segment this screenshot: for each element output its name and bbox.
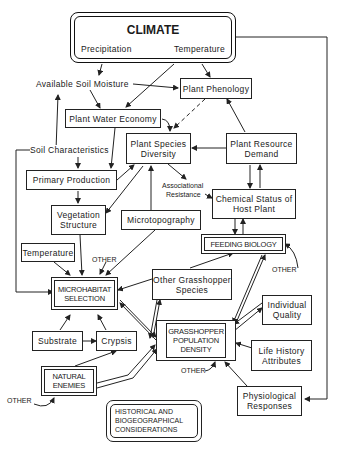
crypsis-node: Crypsis xyxy=(96,331,137,351)
node-line: POPULATION xyxy=(173,336,219,345)
feeding-biology-label: FEEDING BIOLOGY xyxy=(204,237,283,251)
climate-title: CLIMATE xyxy=(75,23,231,37)
plant-species-diversity-node: Plant Species Diversity xyxy=(126,133,191,164)
node-line: NATURAL xyxy=(52,372,85,381)
vegetation-structure-node: Vegetation Structure xyxy=(51,205,106,235)
node-line: DENSITY xyxy=(180,345,211,354)
node-line: Host Plant xyxy=(233,204,275,214)
node-line: Species xyxy=(176,285,208,295)
historical-considerations-inner: HISTORICAL AND BIOGEOGRAPHICAL CONSIDERA… xyxy=(110,404,198,438)
microhabitat-selection-node: MICROHABITAT SELECTION xyxy=(51,277,118,310)
node-line: Diversity xyxy=(141,149,176,159)
node-line: Chemical Status of xyxy=(216,194,293,204)
resistance-label: Resistance xyxy=(166,190,201,200)
plant-water-economy-node: Plant Water Economy xyxy=(65,109,161,128)
individual-quality-node: Individual Quality xyxy=(262,295,312,325)
node-line: HISTORICAL AND xyxy=(115,407,193,416)
temperature-node: Temperature xyxy=(21,243,75,262)
grasshopper-population-density-inner: GRASSHOPPER POPULATION DENSITY xyxy=(166,323,226,358)
node-line: MICROHABITAT xyxy=(58,285,111,294)
available-soil-moisture-label: Available Soil Moisture xyxy=(36,79,129,89)
plant-resource-demand-node: Plant Resource Demand xyxy=(226,133,297,164)
node-line: Responses xyxy=(247,401,292,411)
node-line: GRASSHOPPER xyxy=(168,327,224,336)
substrate-node: Substrate xyxy=(32,331,83,351)
other-enemies-label: OTHER xyxy=(7,396,32,406)
node-line: Plant Species xyxy=(131,139,187,149)
chemical-status-node: Chemical Status of Host Plant xyxy=(212,189,296,219)
other-population-label: OTHER xyxy=(181,366,206,376)
physiological-responses-node: Physiological Responses xyxy=(237,386,302,416)
node-line: Quality xyxy=(273,310,302,320)
temperature-label: Temperature xyxy=(174,44,225,54)
plant-phenology-node: Plant Phenology xyxy=(180,78,252,99)
natural-enemies-inner: NATURAL ENEMIES xyxy=(44,369,94,393)
node-line: SELECTION xyxy=(64,294,105,303)
feeding-biology-node: FEEDING BIOLOGY xyxy=(201,234,286,254)
other-grasshopper-species-node: Other Grasshopper Species xyxy=(152,269,232,300)
node-line: Physiological xyxy=(243,391,297,401)
historical-considerations-box: HISTORICAL AND BIOGEOGRAPHICAL CONSIDERA… xyxy=(106,400,202,442)
node-line: Vegetation xyxy=(57,210,100,220)
node-line: Attributes xyxy=(262,356,301,366)
natural-enemies-node: NATURAL ENEMIES xyxy=(41,366,97,396)
primary-production-node: Primary Production xyxy=(26,170,117,190)
other-feeding-label: OTHER xyxy=(272,265,297,275)
life-history-attributes-node: Life History Attributes xyxy=(251,340,312,371)
node-line: Individual xyxy=(268,300,307,310)
node-line: ENEMIES xyxy=(53,381,85,390)
node-line: Structure xyxy=(60,220,97,230)
node-line: CONSIDERATIONS xyxy=(115,425,193,434)
node-line: BIOGEOGRAPHICAL xyxy=(115,416,193,425)
node-line: Other Grasshopper xyxy=(153,275,231,285)
grasshopper-population-density-node: GRASSHOPPER POPULATION DENSITY xyxy=(156,320,236,361)
node-line: Life History xyxy=(258,346,304,356)
soil-characteristics-label: Soil Characteristics xyxy=(30,145,109,155)
microhabitat-selection-inner: MICROHABITAT SELECTION xyxy=(54,280,115,307)
node-line: Plant Resource xyxy=(230,139,292,149)
microtopography-node: Microtopography xyxy=(121,210,201,230)
precipitation-label: Precipitation xyxy=(81,44,132,54)
other-microhabitat-label: OTHER xyxy=(92,255,117,265)
node-line: Demand xyxy=(245,149,279,159)
climate-box: CLIMATE Precipitation Temperature xyxy=(70,12,236,63)
